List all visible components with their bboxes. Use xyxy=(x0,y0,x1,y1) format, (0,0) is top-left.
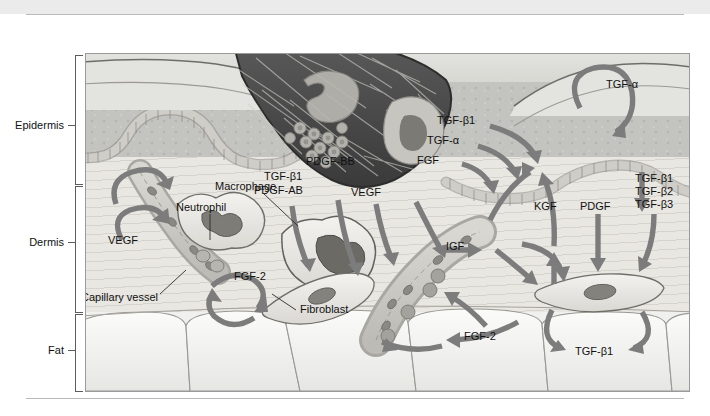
skin-cross-section-panel: TGF-β1 PDGF-AB PDGF-BB VEGF TGF-β1 TGF-α… xyxy=(85,53,690,392)
leader-fibroblast xyxy=(272,294,296,310)
layer-label-dermis: Dermis xyxy=(8,236,64,248)
leader-macrophage xyxy=(264,194,298,226)
dermis-tick xyxy=(68,242,75,243)
top-band xyxy=(0,0,710,14)
layer-label-epidermis: Epidermis xyxy=(8,119,64,131)
dermis-bracket xyxy=(75,186,83,313)
layer-label-fat: Fat xyxy=(8,344,64,356)
top-rule xyxy=(26,14,684,15)
epidermis-tick xyxy=(68,125,75,126)
leader-capillary-vessel xyxy=(160,270,186,294)
bottom-rule xyxy=(26,398,684,399)
leader-lines xyxy=(86,54,689,391)
epidermis-bracket xyxy=(75,55,83,185)
figure-root: Epidermis Dermis Fat xyxy=(0,0,710,416)
fat-bracket xyxy=(75,314,83,392)
fat-tick xyxy=(68,350,75,351)
